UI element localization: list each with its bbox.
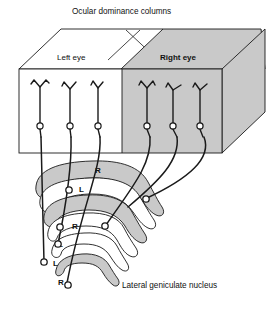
cortex-front-face xyxy=(19,69,222,153)
lgn-layer-R-6 xyxy=(56,254,119,286)
lgn-layer-label: L xyxy=(79,185,84,194)
left-eye-label: Left eye xyxy=(57,53,86,62)
page-title: Ocular dominance columns xyxy=(72,7,171,16)
axon-terminal xyxy=(102,223,108,229)
axon-terminal xyxy=(65,282,71,288)
axon-terminal xyxy=(55,241,61,247)
axon-terminal xyxy=(143,196,149,202)
lgn-layer-label: R xyxy=(72,222,78,231)
axon-terminal xyxy=(66,187,72,193)
axon-terminal xyxy=(57,224,63,230)
lgn-layer-label: L xyxy=(53,259,58,268)
cortex-front-right-gray xyxy=(122,69,222,153)
right-eye-label: Right eye xyxy=(160,53,197,62)
lgn-layer-label: R xyxy=(58,278,64,287)
figure-canvas: Left eye Right eye Ocular dominance colu… xyxy=(0,0,277,313)
axon-terminal xyxy=(41,259,47,265)
lgn-caption: Lateral geniculate nucleus xyxy=(122,281,217,290)
ocular-dominance-figure: Left eye Right eye Ocular dominance colu… xyxy=(0,0,277,313)
